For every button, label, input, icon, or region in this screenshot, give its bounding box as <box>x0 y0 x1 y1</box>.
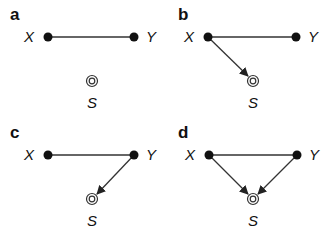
node-y-dot <box>293 151 302 160</box>
node-s-label: S <box>248 212 258 229</box>
node-y-dot <box>130 33 139 42</box>
node-x-dot <box>204 33 213 42</box>
node-y-label: Y <box>146 28 157 45</box>
node-s-label: S <box>87 94 97 111</box>
panel-d: d X Y S <box>178 123 320 229</box>
node-s-label: S <box>248 94 258 111</box>
node-x-label: X <box>23 28 35 45</box>
node-y-label: Y <box>308 28 319 45</box>
causal-diagram: a X Y S b X Y S c X Y <box>0 0 336 236</box>
panel-label-a: a <box>10 5 20 24</box>
node-s-double-circle <box>248 76 259 87</box>
panel-label-c: c <box>10 123 19 142</box>
node-x-dot <box>205 151 214 160</box>
node-x-label: X <box>184 146 196 163</box>
node-s-double-circle <box>248 194 259 205</box>
node-y-label: Y <box>309 146 320 163</box>
panel-a: a X Y S <box>10 5 157 111</box>
node-x-label: X <box>183 28 195 45</box>
edge-y-to-s <box>258 155 297 194</box>
node-s-double-circle <box>87 194 98 205</box>
edge-x-to-s <box>209 155 248 194</box>
node-y-dot <box>130 151 139 160</box>
node-x-dot <box>44 33 53 42</box>
node-y-dot <box>292 33 301 42</box>
panel-label-d: d <box>178 123 188 142</box>
node-y-label: Y <box>146 146 157 163</box>
node-x-label: X <box>23 146 35 163</box>
node-s-label: S <box>87 212 97 229</box>
edge-y-to-s <box>97 155 134 194</box>
panel-label-b: b <box>178 5 188 24</box>
node-s-double-circle <box>87 76 98 87</box>
panel-b: b X Y S <box>178 5 319 111</box>
node-x-dot <box>44 151 53 160</box>
edge-x-to-s <box>208 37 248 76</box>
panel-c: c X Y S <box>10 123 157 229</box>
